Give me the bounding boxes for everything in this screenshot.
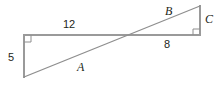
- length-label-top: 12: [63, 19, 75, 30]
- side-label-a: A: [77, 61, 84, 73]
- diagonal-transversal-segment: [24, 6, 200, 77]
- geometry-canvas: [0, 0, 223, 87]
- side-label-c: C: [205, 13, 213, 25]
- length-label-left-leg: 5: [8, 52, 14, 63]
- right-angle-marker-left-icon: [24, 35, 31, 42]
- geometry-diagram: 12 8 5 A B C: [0, 0, 223, 87]
- side-label-b: B: [165, 5, 172, 17]
- length-label-bottom: 8: [164, 39, 170, 50]
